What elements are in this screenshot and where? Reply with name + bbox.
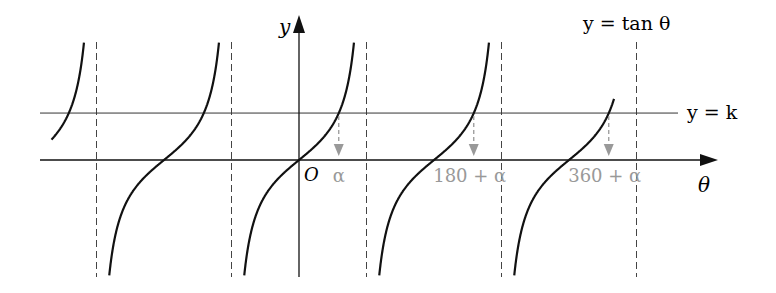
tan-curve <box>52 43 615 276</box>
theta-axis-arrow-icon <box>700 154 718 166</box>
theta-axis-label: θ <box>698 173 710 197</box>
origin-label: O <box>304 164 319 185</box>
tan-graph: α180 + α360 + α y θ O y = tan θ y = k <box>0 0 776 293</box>
solution-label: 180 + α <box>433 165 506 186</box>
down-arrow-icon <box>334 144 344 156</box>
solution-label: α <box>333 165 345 186</box>
k-line-label: y = k <box>686 101 738 123</box>
solution-markers: α180 + α360 + α <box>333 116 642 186</box>
tan-branch <box>52 43 84 140</box>
tan-branch <box>109 43 219 276</box>
tan-branch <box>514 99 614 276</box>
y-axis-arrow-icon <box>293 15 305 33</box>
y-axis-label: y <box>278 15 291 39</box>
solution-label: 360 + α <box>568 165 641 186</box>
down-arrow-icon <box>469 144 479 156</box>
tan-branch <box>379 43 489 276</box>
function-label: y = tan θ <box>582 12 670 34</box>
down-arrow-icon <box>604 144 614 156</box>
